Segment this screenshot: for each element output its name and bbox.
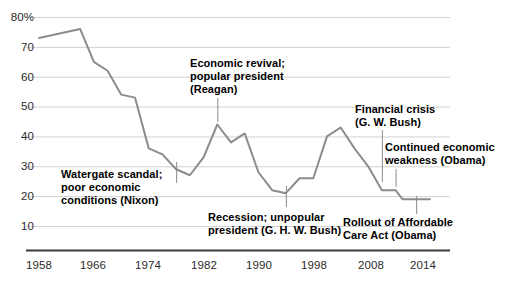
x-tick-label-2008: 2008 bbox=[348, 259, 394, 271]
annotation-financial-crisis: Financial crisis (G. W. Bush) bbox=[355, 103, 435, 129]
y-tick-label-70: 70 bbox=[0, 41, 34, 53]
y-tick-label-10: 10 bbox=[0, 220, 34, 232]
y-tick-label-20: 20 bbox=[0, 190, 34, 202]
annotation-ghw-bush: Recession; unpopular president (G. H. W.… bbox=[208, 211, 341, 237]
x-tick-label-1966: 1966 bbox=[70, 259, 116, 271]
x-tick-label-2014: 2014 bbox=[400, 259, 446, 271]
y-tick-label-30: 30 bbox=[0, 160, 34, 172]
y-tick-label-40: 40 bbox=[0, 130, 34, 142]
y-tick-label-60: 60 bbox=[0, 71, 34, 83]
annotation-watergate: Watergate scandal; poor economic conditi… bbox=[61, 168, 162, 208]
annotation-obama-weakness: Continued economic weakness (Obama) bbox=[385, 141, 495, 167]
y-tick-label-80: 80% bbox=[0, 11, 34, 23]
x-tick-label-1974: 1974 bbox=[125, 259, 171, 271]
x-tick-label-1982: 1982 bbox=[181, 259, 227, 271]
x-tick-label-1998: 1998 bbox=[291, 259, 337, 271]
x-tick-label-1958: 1958 bbox=[16, 259, 62, 271]
trust-in-government-line-chart: 80% 70 60 50 40 30 20 10 1958 1966 1974 … bbox=[0, 0, 506, 286]
annotation-aca-rollout: Rollout of Affordable Care Act (Obama) bbox=[343, 216, 453, 242]
x-tick-label-1990: 1990 bbox=[236, 259, 282, 271]
y-tick-label-50: 50 bbox=[0, 100, 34, 112]
annotation-reagan: Economic revival; popular president (Rea… bbox=[190, 57, 285, 97]
